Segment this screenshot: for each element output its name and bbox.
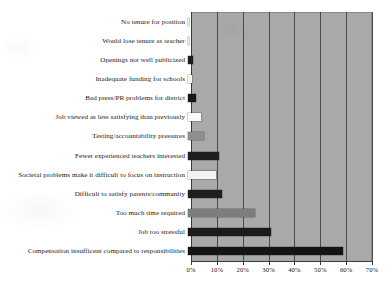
x-tick-mark (269, 261, 270, 265)
category-label: No tenure for position (0, 18, 188, 26)
bar (188, 132, 204, 140)
x-tick-label: 60% (340, 266, 352, 273)
x-tick-label: 70% (366, 266, 378, 273)
bar-track (188, 31, 369, 50)
bar (188, 94, 196, 102)
bar-track (188, 89, 369, 108)
bar (188, 75, 192, 83)
bar (188, 171, 216, 179)
category-label: Inadequate funding for schools (0, 75, 188, 83)
bar-track (188, 146, 369, 165)
bar-row: Bad press/PR problems for district (0, 89, 392, 108)
bar-track (188, 165, 369, 184)
x-tick-label: 10% (211, 266, 223, 273)
category-label: Too much time required (0, 209, 188, 217)
bar (188, 56, 193, 64)
x-tick-mark (320, 261, 321, 265)
category-label: Fewer experienced teachers interested (0, 152, 188, 160)
bar-track (188, 184, 369, 203)
category-label: Job viewed as less satisfying than previ… (0, 113, 188, 121)
category-label: Would lose tenure as teacher (0, 37, 188, 45)
horizontal-bar-chart: No tenure for positionWould lose tenure … (0, 0, 392, 291)
bar (188, 37, 189, 45)
x-axis-tick-labels: 0%10%20%30%40%50%60%70% (0, 266, 392, 280)
bar (188, 152, 219, 160)
bar-row: Societal problems make it difficult to f… (0, 165, 392, 184)
category-label: Difficult to satisfy parents/community (0, 190, 188, 198)
bar-row: Would lose tenure as teacher (0, 31, 392, 50)
x-tick-label: 50% (314, 266, 326, 273)
x-tick-mark (294, 261, 295, 265)
bar-row: Fewer experienced teachers interested (0, 146, 392, 165)
category-label: Compensation insufficent compared to res… (0, 247, 188, 255)
bar-track (188, 12, 369, 31)
bar-row: Openings not well publicized (0, 50, 392, 69)
x-tick-mark (191, 261, 192, 265)
x-tick-label: 30% (262, 266, 274, 273)
x-tick-label: 0% (187, 266, 196, 273)
bar-track (188, 50, 369, 69)
bar (188, 228, 271, 236)
x-tick-mark (372, 261, 373, 265)
bar-track (188, 108, 369, 127)
bar-track (188, 242, 369, 261)
bar (188, 209, 255, 217)
bar-track (188, 204, 369, 223)
x-tick-label: 20% (237, 266, 249, 273)
bar-row: Compensation insufficent compared to res… (0, 242, 392, 261)
bar-row: Difficult to satisfy parents/community (0, 184, 392, 203)
bar-row: Testing/accountability pressures (0, 127, 392, 146)
bar-row: Inadequate funding for schools (0, 69, 392, 88)
bar-track (188, 223, 369, 242)
bar-track (188, 69, 369, 88)
bar (188, 247, 343, 255)
x-tick-mark (243, 261, 244, 265)
bar-row: Job viewed as less satisfying than previ… (0, 108, 392, 127)
bar-row: Job too stressful (0, 223, 392, 242)
x-tick-mark (217, 261, 218, 265)
category-label: Societal problems make it difficult to f… (0, 171, 188, 179)
bar (188, 113, 201, 121)
bar-row: Too much time required (0, 204, 392, 223)
category-label: Openings not well publicized (0, 56, 188, 64)
category-label: Job too stressful (0, 228, 188, 236)
bar-row: No tenure for position (0, 12, 392, 31)
x-tick-mark (346, 261, 347, 265)
bar-track (188, 127, 369, 146)
x-tick-label: 40% (288, 266, 300, 273)
category-label: Bad press/PR problems for district (0, 94, 188, 102)
category-label: Testing/accountability pressures (0, 132, 188, 140)
bar (188, 18, 189, 26)
bar (188, 190, 222, 198)
